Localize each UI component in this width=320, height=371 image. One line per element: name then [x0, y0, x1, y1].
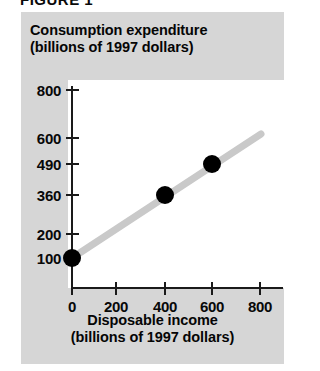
- y-tick-label: 490: [21, 156, 61, 173]
- y-tick-label: 800: [21, 82, 61, 99]
- data-point: [63, 249, 81, 267]
- y-tick-label: 360: [21, 187, 61, 204]
- data-point: [203, 155, 221, 173]
- data-point: [156, 186, 174, 204]
- x-axis-title: Disposable income (billions of 1997 doll…: [21, 312, 284, 346]
- x-axis-title-line1: Disposable income: [87, 312, 217, 328]
- y-tick-label: 100: [21, 250, 61, 267]
- y-tick-label: 200: [21, 226, 61, 243]
- y-tick-label: 600: [21, 130, 61, 147]
- figure-label: FIGURE 1: [20, 0, 93, 8]
- x-axis-title-line2: (billions of 1997 dollars): [21, 329, 284, 346]
- figure-card: Consumption expenditure (billions of 199…: [21, 12, 284, 364]
